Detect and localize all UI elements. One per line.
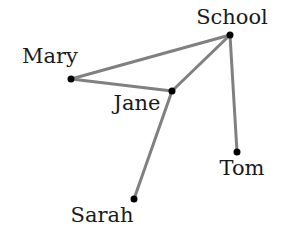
node-jane [169,88,176,95]
network-diagram: SchoolMaryJaneTomSarah [0,0,287,239]
edges [71,35,237,199]
label-school: School [196,5,268,29]
node-mary [68,76,75,83]
label-tom: Tom [220,156,265,180]
node-tom [234,149,241,156]
edge-mary-jane [71,79,172,91]
label-mary: Mary [22,44,78,68]
label-sarah: Sarah [71,203,134,227]
node-school [227,32,234,39]
label-jane: Jane [112,91,161,115]
node-sarah [131,196,138,203]
edge-school-tom [230,35,237,152]
